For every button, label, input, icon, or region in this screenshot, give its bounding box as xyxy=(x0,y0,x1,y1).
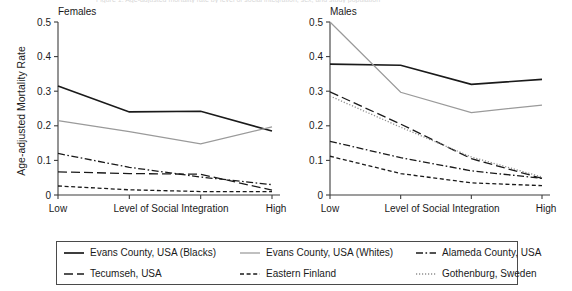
legend-line-swatch xyxy=(415,248,437,258)
x-tick-label-low: Low xyxy=(321,203,340,214)
panel-females: Females Age-adjusted Mortality Rate 00.1… xyxy=(0,0,292,226)
y-tick-label: 0 xyxy=(45,190,51,201)
plot-females: 00.10.20.30.40.5LowHighLevel of Social I… xyxy=(0,0,292,226)
x-tick-label-high: High xyxy=(536,203,557,214)
series-line xyxy=(330,141,542,178)
series-line xyxy=(58,121,272,144)
y-tick-label: 0.2 xyxy=(37,120,51,131)
legend-line-swatch xyxy=(415,269,437,279)
y-tick-label: 0.1 xyxy=(37,155,51,166)
y-tick-label: 0.5 xyxy=(309,17,323,28)
y-tick-label: 0.3 xyxy=(37,86,51,97)
y-tick-label: 0 xyxy=(317,190,323,201)
legend-item[interactable]: Evans County, USA (Whites) xyxy=(239,247,415,258)
series-line xyxy=(58,186,272,192)
series-line xyxy=(58,153,272,184)
y-tick-label: 0.4 xyxy=(309,51,323,62)
series-line xyxy=(330,22,542,113)
x-tick-label-low: Low xyxy=(49,203,68,214)
legend-label: Evans County, USA (Whites) xyxy=(266,247,393,258)
legend-line-swatch xyxy=(63,248,85,258)
legend-item[interactable]: Evans County, USA (Blacks) xyxy=(63,247,239,258)
legend-line-swatch xyxy=(63,269,85,279)
legend-label: Evans County, USA (Blacks) xyxy=(90,247,216,258)
series-line xyxy=(330,156,542,185)
legend-item[interactable]: Tecumseh, USA xyxy=(63,268,239,279)
x-tick-label-high: High xyxy=(266,203,287,214)
panel-males: Males 00.10.20.30.40.5LowHighLevel of So… xyxy=(290,0,572,226)
legend-label: Alameda County, USA xyxy=(442,247,541,258)
legend-line-swatch xyxy=(239,248,261,258)
y-tick-label: 0.4 xyxy=(37,51,51,62)
y-tick-label: 0.2 xyxy=(309,120,323,131)
x-axis-label: Level of Social Integration xyxy=(384,203,499,214)
legend-label: Gothenburg, Sweden xyxy=(442,268,537,279)
series-line xyxy=(58,172,272,190)
legend-label: Tecumseh, USA xyxy=(90,268,162,279)
figure-mortality-by-social-integration: Figure 1. Age-adjusted mortality rate by… xyxy=(0,0,572,291)
y-tick-label: 0.3 xyxy=(309,86,323,97)
plot-males: 00.10.20.30.40.5LowHighLevel of Social I… xyxy=(290,0,572,226)
legend-item[interactable]: Eastern Finland xyxy=(239,268,415,279)
legend-item[interactable]: Alameda County, USA xyxy=(415,247,541,258)
x-axis-label: Level of Social Integration xyxy=(113,203,228,214)
y-tick-label: 0.1 xyxy=(309,155,323,166)
legend-line-swatch xyxy=(239,269,261,279)
series-line xyxy=(330,64,542,84)
legend-item[interactable]: Gothenburg, Sweden xyxy=(415,268,541,279)
series-line xyxy=(330,92,542,179)
legend-box: Evans County, USA (Blacks)Evans County, … xyxy=(56,241,518,285)
y-tick-label: 0.5 xyxy=(37,17,51,28)
series-line xyxy=(58,86,272,131)
legend-label: Eastern Finland xyxy=(266,268,336,279)
